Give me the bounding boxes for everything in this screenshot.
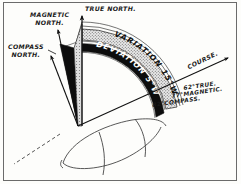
compass-north-label-line1: COMPASS (8, 43, 44, 51)
magnetic-north-label-line1: MAGNETIC (30, 11, 69, 19)
figure-canvas: VARIATION 15°W DEVIATION 5°W (0, 0, 241, 184)
true-north-label: TRUE NORTH. (85, 5, 136, 13)
magnetic-north-label-line2: NORTH. (30, 19, 69, 27)
ship-hull-outline (61, 119, 166, 175)
dashed-course-extension (14, 134, 60, 164)
compass-north-leader (48, 50, 56, 54)
magnetic-north-label: MAGNETIC NORTH. (30, 11, 69, 27)
compass-error-sector (60, 24, 82, 126)
compass-north-label-line2: NORTH. (8, 51, 44, 59)
compass-north-label: COMPASS NORTH. (8, 43, 44, 59)
